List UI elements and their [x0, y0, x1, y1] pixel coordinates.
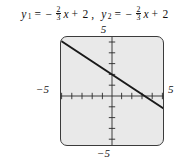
- equation-separator-comma: ,: [91, 8, 94, 20]
- equation-y1-denominator: 3: [56, 13, 62, 22]
- axis-label-top: 5: [0, 24, 191, 35]
- equation-y1-variable: x: [63, 8, 68, 20]
- equation-y1-lhs: y: [21, 8, 26, 20]
- equation-y2-sign: −: [126, 8, 133, 20]
- equation-y2-equals: =: [115, 8, 122, 20]
- axis-label-bottom: −5: [0, 148, 191, 159]
- equation-y2-fraction: 2 3: [136, 6, 142, 23]
- equation-y2-numerator: 2: [136, 6, 142, 14]
- equation-y2-subscript: 2: [108, 13, 112, 21]
- equation-y1-constant: 2: [83, 8, 89, 20]
- equation-y1: y1 = − 2 3 x + 2,: [21, 6, 94, 23]
- axis-label-left: −5: [36, 84, 49, 95]
- plot-canvas: [0, 26, 191, 168]
- equation-y1-fraction: 2 3: [56, 6, 62, 23]
- figure-container: y1 = − 2 3 x + 2, y2 = − 2 3 x + 2: [0, 0, 191, 168]
- axis-label-right: 5: [168, 84, 174, 95]
- equation-y2-denominator: 3: [136, 13, 142, 22]
- equation-y2: y2 = − 2 3 x + 2: [101, 6, 170, 23]
- equation-y1-subscript: 1: [28, 13, 32, 21]
- equation-y2-lhs: y: [101, 8, 106, 20]
- graph-area: 5 −5 −5 5: [0, 26, 191, 168]
- equation-y1-numerator: 2: [56, 6, 62, 14]
- equation-y2-plus: +: [152, 8, 159, 20]
- plot-contents: [59, 37, 165, 145]
- equation-y1-sign: −: [46, 8, 53, 20]
- equation-caption: y1 = − 2 3 x + 2, y2 = − 2 3 x + 2: [0, 6, 191, 23]
- equation-y2-constant: 2: [163, 8, 169, 20]
- equation-y2-variable: x: [143, 8, 148, 20]
- equation-y1-equals: =: [35, 8, 42, 20]
- equation-y1-plus: +: [72, 8, 79, 20]
